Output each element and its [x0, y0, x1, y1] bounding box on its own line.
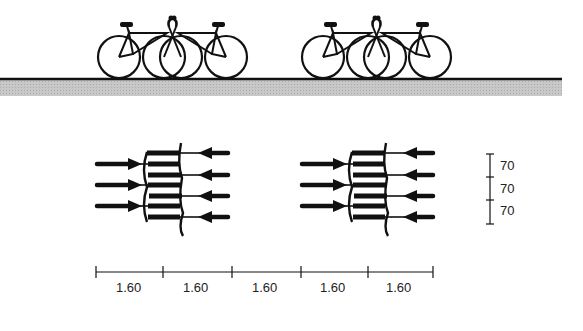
horizontal-dim-label-3: 1.60 — [252, 280, 277, 295]
horizontal-dimension — [96, 266, 433, 278]
horizontal-dim-label-2: 1.60 — [183, 280, 208, 295]
left-plan-group — [97, 143, 228, 236]
horizontal-dim-label-5: 1.60 — [386, 280, 411, 295]
bicycle-parking-diagram: 70 70 70 1.60 1.60 1.60 1.60 1.60 — [0, 0, 583, 331]
vertical-dim-label-2: 70 — [500, 181, 514, 196]
vertical-dim-label-1: 70 — [500, 158, 514, 173]
left-bike-group — [98, 16, 247, 79]
vertical-dim-label-3: 70 — [500, 203, 514, 218]
horizontal-dim-label-1: 1.60 — [116, 280, 141, 295]
horizontal-dim-label-4: 1.60 — [320, 280, 345, 295]
right-plan-group — [302, 143, 433, 236]
right-bike-group — [302, 16, 451, 79]
vertical-dimension — [486, 154, 494, 224]
ground — [0, 79, 562, 96]
